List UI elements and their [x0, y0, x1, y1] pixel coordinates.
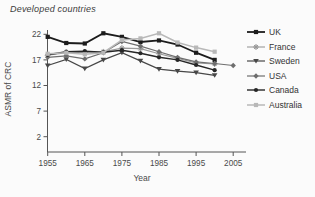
marker — [213, 50, 217, 54]
series-line — [48, 53, 215, 76]
legend: UKFranceSwedenUSACanadaAustralia — [246, 27, 302, 110]
usa-marker-icon — [246, 71, 266, 81]
marker — [82, 67, 88, 72]
marker — [194, 51, 198, 55]
marker — [254, 44, 259, 49]
marker — [254, 103, 258, 107]
marker — [253, 73, 258, 78]
legend-item-sweden: Sweden — [246, 56, 302, 66]
marker — [83, 52, 87, 56]
x-axis-label: Year — [47, 173, 237, 183]
x-tick-label: 1995 — [187, 159, 206, 168]
sweden-marker-icon — [246, 56, 266, 66]
marker — [175, 58, 179, 62]
marker — [175, 40, 179, 44]
marker — [101, 31, 105, 35]
legend-label: Australia — [269, 100, 302, 110]
legend-item-usa: USA — [246, 71, 302, 81]
marker — [64, 41, 68, 45]
marker — [231, 63, 236, 68]
x-tick-label: 1965 — [76, 159, 95, 168]
marker — [83, 41, 87, 45]
france-marker-icon — [246, 42, 266, 52]
legend-item-canada: Canada — [246, 85, 302, 95]
x-tick-label: 1985 — [150, 159, 169, 168]
x-tick-label: 1975 — [113, 159, 132, 168]
marker — [157, 55, 161, 59]
legend-item-australia: Australia — [246, 100, 302, 110]
x-tick-label: 1955 — [39, 159, 58, 168]
australia-marker-icon — [246, 100, 266, 110]
marker — [213, 68, 217, 72]
marker — [138, 36, 142, 40]
marker — [138, 43, 143, 48]
marker — [157, 38, 161, 42]
marker — [254, 30, 258, 34]
uk-marker-icon — [246, 27, 266, 37]
legend-label: UK — [269, 27, 281, 37]
legend-label: Canada — [269, 85, 299, 95]
legend-label: France — [269, 42, 295, 52]
marker — [120, 48, 124, 52]
marker — [194, 46, 198, 50]
legend-label: Sweden — [269, 56, 300, 66]
marker — [46, 52, 50, 56]
y-tick-label: 7 — [36, 107, 41, 116]
figure: Developed countries ASMR of CRC 27121722… — [0, 0, 315, 197]
legend-label: USA — [269, 71, 286, 81]
legend-item-france: France — [246, 42, 302, 52]
marker — [138, 51, 142, 55]
marker — [64, 51, 68, 55]
y-tick-label: 2 — [36, 133, 41, 142]
canada-marker-icon — [246, 85, 266, 95]
marker — [120, 38, 124, 42]
series-line — [48, 33, 215, 60]
marker — [101, 51, 105, 55]
y-tick-label: 22 — [32, 30, 42, 39]
y-tick-label: 12 — [32, 81, 42, 90]
axes — [44, 30, 247, 156]
legend-item-uk: UK — [246, 27, 302, 37]
marker — [157, 31, 161, 35]
marker — [82, 56, 87, 61]
marker — [46, 35, 50, 39]
y-tick-label: 17 — [32, 56, 42, 65]
marker — [194, 63, 198, 67]
marker — [254, 88, 258, 92]
marker — [45, 63, 51, 68]
x-tick-label: 2005 — [224, 159, 243, 168]
